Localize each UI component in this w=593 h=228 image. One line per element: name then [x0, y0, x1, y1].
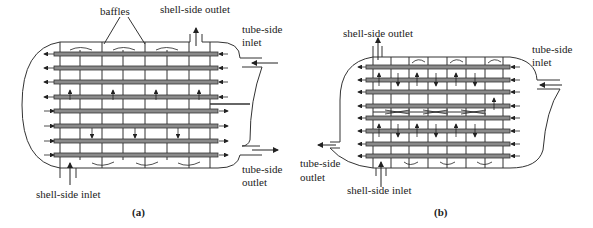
tube-inlet-label-b-2: inlet: [532, 56, 552, 68]
tube-inlet-label-a-2: inlet: [242, 36, 262, 48]
caption-a: (a): [132, 206, 145, 218]
tube-outlet-label-a-1: tube-side: [242, 163, 282, 175]
shell-outlet-label-b: shell-side outlet: [343, 27, 413, 39]
shell-outlet-label-a: shell-side outlet: [160, 3, 230, 15]
tube-outlet-label-a-2: outlet: [242, 176, 267, 188]
tube-outlet-label-b-2: outlet: [300, 171, 325, 183]
tube-inlet-label-a-1: tube-side: [242, 23, 282, 35]
shell-inlet-label-b: shell-side inlet: [347, 184, 411, 196]
caption-b: (b): [434, 206, 447, 218]
baffles-label: baffles: [100, 5, 130, 17]
shell-inlet-label-a: shell-side inlet: [36, 188, 100, 200]
panel-a-tubes: [54, 52, 218, 157]
tube-outlet-label-b-1: tube-side: [300, 157, 340, 169]
tube-inlet-label-b-1: tube-side: [532, 43, 572, 55]
panel-a-flow-arrows: [44, 48, 228, 166]
panel-a: [22, 17, 278, 185]
